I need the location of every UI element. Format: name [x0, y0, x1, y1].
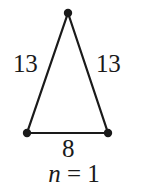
left-side-length-label: 13 [13, 51, 37, 76]
triangle-figure: 13 13 8 n = 1 [0, 0, 150, 187]
caption-value: 1 [87, 160, 100, 187]
vertex-dot-apex [64, 9, 72, 17]
right-side-length-label: 13 [96, 51, 120, 76]
caption-equals: = [67, 160, 81, 187]
base-length-label: 8 [0, 136, 136, 161]
caption-variable: n [48, 160, 61, 187]
figure-caption: n = 1 [0, 161, 148, 186]
